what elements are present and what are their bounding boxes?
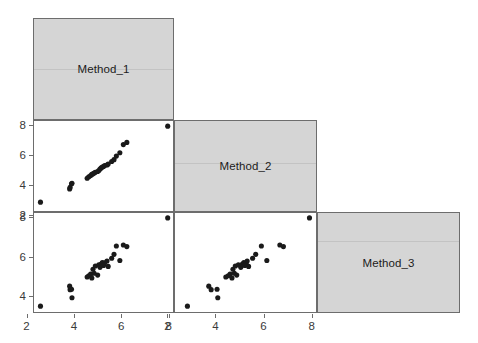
data-point (114, 243, 119, 248)
y-tick-row3-4: 4 (12, 290, 26, 302)
data-point (246, 264, 251, 269)
diagonal-panel-method-2: Method_2 (174, 120, 317, 212)
scatter-svg-31 (34, 213, 173, 312)
data-point (215, 295, 220, 300)
data-point (117, 258, 122, 263)
y-tick-row3-6: 6 (12, 251, 26, 263)
data-point (234, 273, 239, 278)
data-point (165, 124, 170, 129)
tick-mark (312, 314, 313, 318)
scatter-panel-method2-vs-method1 (33, 120, 174, 212)
diagonal-panel-method-3: Method_3 (317, 212, 460, 313)
x-tick-col2-2: 2 (160, 320, 174, 332)
tick-mark (29, 185, 33, 186)
scatter-svg-21 (34, 121, 173, 211)
data-point (106, 264, 111, 269)
data-point (209, 287, 214, 292)
tick-mark (29, 296, 33, 297)
y-tick-row2-6: 6 (12, 149, 26, 161)
y-tick-row2-8: 8 (12, 119, 26, 131)
data-point (89, 275, 94, 280)
tick-mark (74, 314, 75, 318)
tick-mark (29, 215, 33, 216)
x-tick-col2-8: 8 (305, 320, 319, 332)
data-point (229, 275, 234, 280)
x-tick-col1-6: 6 (114, 320, 128, 332)
tick-mark (29, 257, 33, 258)
data-point (95, 273, 100, 278)
data-point (264, 258, 269, 263)
data-point (38, 200, 43, 205)
tick-mark (29, 125, 33, 126)
y-tick-row3-8: 8 (12, 211, 26, 223)
diagonal-hairline (318, 241, 459, 242)
tick-mark (29, 155, 33, 156)
diagonal-label-method-1: Method_1 (78, 63, 130, 75)
x-tick-col2-4: 4 (208, 320, 222, 332)
data-point (185, 304, 190, 309)
tick-mark (167, 314, 168, 318)
tick-mark (215, 314, 216, 318)
scatter-panel-method3-vs-method2 (174, 212, 317, 313)
tick-mark (27, 314, 28, 318)
scatter-svg-32 (175, 213, 316, 312)
data-point (124, 244, 129, 249)
data-point (253, 252, 258, 257)
y-tick-row2-4: 4 (12, 179, 26, 191)
data-point (259, 243, 264, 248)
scatterplot-matrix: Method_1 Method_2 Method_3 8642864246824… (0, 0, 478, 343)
data-point (124, 140, 129, 145)
data-point (117, 150, 122, 155)
data-point (214, 287, 219, 292)
x-tick-col1-2: 2 (20, 320, 34, 332)
data-point (69, 287, 74, 292)
tick-mark (169, 314, 170, 318)
diagonal-label-method-2: Method_2 (220, 160, 272, 172)
data-point (165, 215, 170, 220)
data-point (307, 215, 312, 220)
diagonal-label-method-3: Method_3 (363, 257, 415, 269)
data-point (69, 295, 74, 300)
scatter-panel-method3-vs-method1 (33, 212, 174, 313)
x-tick-col1-4: 4 (67, 320, 81, 332)
data-point (38, 304, 43, 309)
data-point (69, 181, 74, 186)
diagonal-panel-method-1: Method_1 (33, 18, 174, 120)
tick-mark (121, 314, 122, 318)
tick-mark (264, 314, 265, 318)
data-point (245, 258, 250, 263)
data-point (281, 244, 286, 249)
data-point (104, 258, 109, 263)
tick-mark (29, 217, 33, 218)
x-tick-col2-6: 6 (257, 320, 271, 332)
data-point (111, 252, 116, 257)
